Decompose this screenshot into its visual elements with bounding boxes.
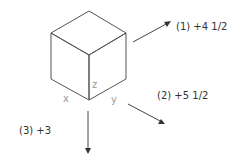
axis-label-y: y	[111, 95, 117, 105]
arrow-2-label: (2) +5 1/2	[157, 91, 208, 101]
cube-top-face	[51, 11, 126, 55]
cube-left-face	[51, 33, 89, 100]
axis-label-x: x	[63, 94, 69, 104]
arrow-1-label: (1) +4 1/2	[176, 22, 227, 32]
arrow-1	[133, 21, 171, 42]
arrow-3-label: (3) +3	[19, 126, 51, 136]
arrow-2	[128, 104, 165, 124]
axis-label-z: z	[92, 80, 97, 90]
arrow-3	[85, 111, 91, 154]
cube	[51, 11, 126, 100]
